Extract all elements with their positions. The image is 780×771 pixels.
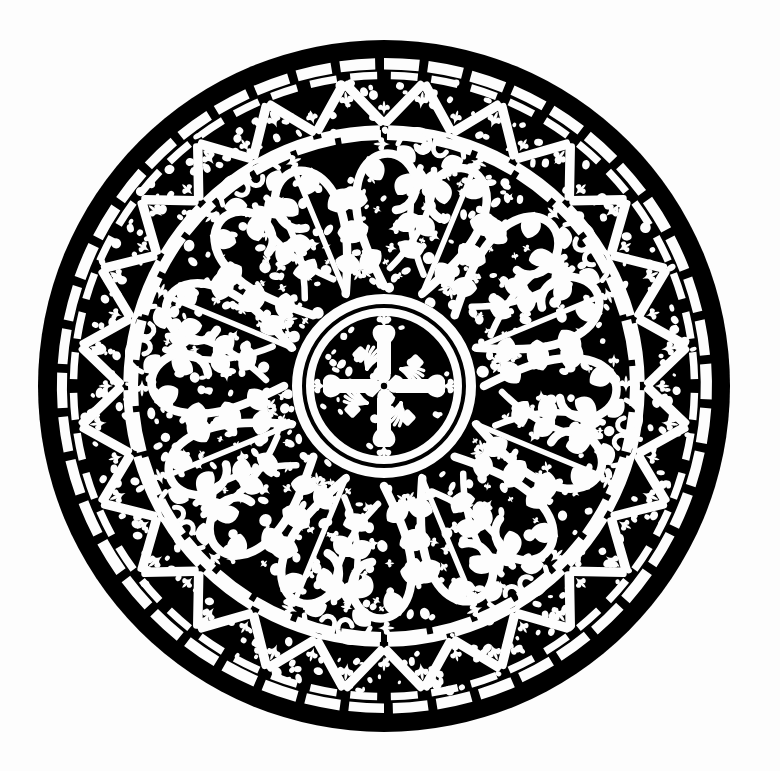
- bead-block: [57, 373, 68, 409]
- artwork-canvas: [0, 0, 780, 771]
- ornamental-roundel: [0, 0, 780, 771]
- chevron-bar: [193, 143, 204, 201]
- central-medallion: [292, 294, 476, 478]
- bead-block: [700, 364, 712, 400]
- bead-block: [384, 58, 420, 71]
- ink-root: [38, 40, 730, 732]
- pebble-tessera: [644, 296, 652, 302]
- pebble-tessera: [228, 617, 235, 626]
- center-dot: [381, 383, 387, 389]
- chevron-bar: [565, 571, 576, 629]
